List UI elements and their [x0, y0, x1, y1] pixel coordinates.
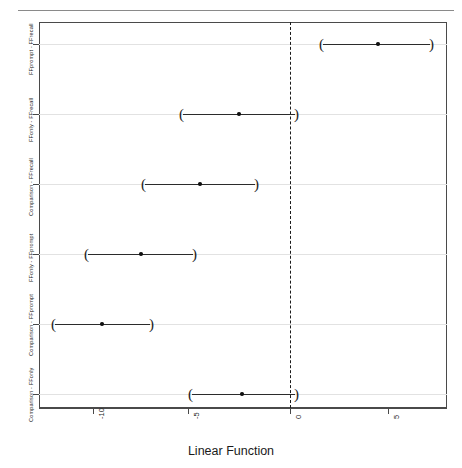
y-axis-label-ffprompt-ffrecall: FFprompt - FFrecall: [28, 23, 34, 75]
confidence-interval-ffprompt-ffrecall: ( ): [323, 35, 430, 53]
interval-estimate-point: [237, 112, 241, 116]
confidence-interval-ffonly-ffprompt: ( ): [88, 245, 193, 263]
x-axis-tick: [188, 408, 189, 414]
y-axis-label-comparison-ffprompt: Comparison - FFprompt: [28, 294, 34, 356]
interval-lower-bracket: (: [319, 35, 324, 53]
confidence-interval-comparison-ffonly: ( ): [192, 385, 295, 403]
interval-lower-bracket: (: [141, 175, 146, 193]
title-rule: [18, 10, 454, 11]
interval-estimate-point: [198, 182, 202, 186]
interval-upper-bracket: ): [254, 175, 259, 193]
interval-lower-bracket: (: [51, 315, 56, 333]
zero-reference-line: [290, 22, 291, 408]
x-axis-tick-label: -10: [97, 408, 106, 419]
x-axis-tick: [388, 408, 389, 414]
confidence-interval-comparison-ffrecall: ( ): [145, 175, 255, 193]
plot-area: [39, 22, 447, 408]
y-axis-label-comparison-ffrecall: Comparison - FFrecall: [28, 158, 34, 216]
interval-estimate-point: [376, 42, 380, 46]
x-axis-tick-label: -5: [192, 412, 201, 419]
y-axis-label-ffonly-ffprompt: FFonly - FFprompt: [28, 234, 34, 282]
confidence-interval-comparison-ffprompt: ( ): [55, 315, 150, 333]
x-axis-title: Linear Function: [0, 444, 462, 458]
x-axis-tick: [290, 408, 291, 414]
x-axis-tick-label: 5: [392, 415, 401, 419]
interval-upper-bracket: ): [429, 35, 434, 53]
interval-lower-bracket: (: [84, 245, 89, 263]
x-axis-tick-label: 0: [294, 415, 303, 419]
interval-estimate-point: [240, 392, 244, 396]
interval-estimate-point: [139, 252, 143, 256]
interval-upper-bracket: ): [294, 385, 299, 403]
y-axis-label-ffonly-ffrecall: FFonly - FFrecall: [28, 98, 34, 142]
interval-upper-bracket: ): [192, 245, 197, 263]
interval-lower-bracket: (: [179, 105, 184, 123]
interval-upper-bracket: ): [149, 315, 154, 333]
y-axis-label-comparison-ffonly: Comparison - FFonly: [28, 367, 34, 422]
confidence-interval-ffonly-ffrecall: ( ): [183, 105, 295, 123]
interval-lower-bracket: (: [188, 385, 193, 403]
interval-upper-bracket: ): [294, 105, 299, 123]
x-axis-tick: [93, 408, 94, 414]
tukey-confidence-interval-plot: ( ) ( ) ( ) ( ) ( ) ( ) FFprompt -: [0, 0, 462, 468]
interval-estimate-point: [100, 322, 104, 326]
